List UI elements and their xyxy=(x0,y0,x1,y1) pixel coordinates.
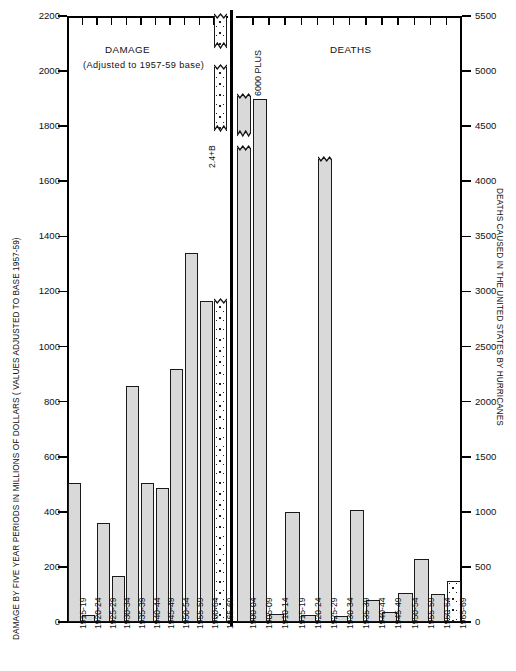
x-tick-label: 1965-69 xyxy=(225,597,235,629)
y-tick-label: 800 xyxy=(26,396,60,407)
top-tick xyxy=(284,16,285,25)
y-tick-label: 2000 xyxy=(26,65,60,76)
x-tick-label: 1930-34 xyxy=(345,597,355,629)
y-tick-label: 600 xyxy=(26,451,60,462)
y-tick-label: 5000 xyxy=(475,65,496,76)
x-tick-label: 1920-24 xyxy=(93,597,103,629)
x-tick-label: 1940-44 xyxy=(377,597,387,629)
top-tick xyxy=(397,16,398,25)
y-tick-label: 200 xyxy=(26,561,60,572)
y-tick-label: 3000 xyxy=(475,285,496,296)
top-tick xyxy=(381,16,382,25)
deaths-break-label: 6000 PLUS xyxy=(253,50,263,96)
x-tick-label: 1900-04 xyxy=(248,597,258,629)
deaths-caption: DEATHS xyxy=(330,44,371,55)
y-tick-label: 4500 xyxy=(475,120,496,131)
x-tick-label: 1950-54 xyxy=(410,597,420,629)
y-tick-label: 1000 xyxy=(475,506,496,517)
y-tick xyxy=(462,401,471,403)
x-tick-label: 1915-19 xyxy=(297,597,307,629)
top-tick xyxy=(301,16,302,25)
top-tick xyxy=(349,16,350,25)
y-tick-label: 1000 xyxy=(26,341,60,352)
bar xyxy=(253,99,268,622)
bar xyxy=(318,159,333,622)
y-tick-label: 1500 xyxy=(475,451,496,462)
top-tick xyxy=(333,16,334,25)
panel-divider xyxy=(230,10,233,626)
top-tick xyxy=(140,16,141,25)
y-tick-label: 4000 xyxy=(475,175,496,186)
top-tick xyxy=(365,16,366,25)
damage-caption: DAMAGE xyxy=(105,44,150,55)
x-tick-label: 1960-64 xyxy=(442,597,452,629)
y-tick-label: 5500 xyxy=(475,10,496,21)
top-tick xyxy=(111,16,112,25)
y-tick-label: 3500 xyxy=(475,230,496,241)
x-tick-label: 1920-24 xyxy=(313,597,323,629)
x-tick-label: 1935-39 xyxy=(361,597,371,629)
x-tick-label: 1940-44 xyxy=(152,597,162,629)
x-tick-label: 1925-29 xyxy=(329,597,339,629)
y-tick xyxy=(462,236,471,238)
top-tick xyxy=(199,16,200,25)
top-tick xyxy=(430,16,431,25)
top-tick xyxy=(446,16,447,25)
y-tick-label: 1800 xyxy=(26,120,60,131)
y-tick-label: 500 xyxy=(475,561,491,572)
top-tick xyxy=(268,16,269,25)
hurricane-damage-deaths-chart: DAMAGE BY FIVE YEAR PERIODS IN MILLIONS … xyxy=(0,0,516,671)
y-tick-label: 2500 xyxy=(475,341,496,352)
x-tick-label: 1905-09 xyxy=(264,597,274,629)
x-tick-label: 1945-49 xyxy=(393,597,403,629)
y-tick-label: 2000 xyxy=(475,396,496,407)
top-tick xyxy=(155,16,156,25)
top-tick xyxy=(96,16,97,25)
y-tick xyxy=(462,15,471,17)
top-tick xyxy=(169,16,170,25)
y-tick xyxy=(462,125,471,127)
bar xyxy=(200,301,213,622)
y-tick-label: 0 xyxy=(475,616,480,627)
y-tick xyxy=(462,511,471,513)
y-tick xyxy=(462,456,471,458)
x-tick-label: 1965-69 xyxy=(458,597,468,629)
x-tick-label: 1955-59 xyxy=(426,597,436,629)
top-tick xyxy=(82,16,83,25)
bar xyxy=(185,253,198,622)
x-tick-label: 1915-19 xyxy=(78,597,88,629)
damage-break-label: 2.4+B xyxy=(207,145,217,168)
top-tick xyxy=(184,16,185,25)
bar-segment xyxy=(237,96,252,133)
x-tick-label: 1925-29 xyxy=(108,597,118,629)
top-tick xyxy=(126,16,127,25)
y-tick xyxy=(462,291,471,293)
y-tick xyxy=(462,566,471,568)
x-tick-label: 1955-59 xyxy=(195,597,205,629)
bar-segment xyxy=(214,16,227,46)
x-tick-label: 1950-54 xyxy=(181,597,191,629)
right-axis-title: DEATHS CAUSED IN THE UNITED STATES BY HU… xyxy=(495,188,504,426)
y-tick xyxy=(462,180,471,182)
bar xyxy=(126,386,139,622)
x-tick-label: 1945-49 xyxy=(166,597,176,629)
x-tick-label: 1910-14 xyxy=(280,597,290,629)
bar xyxy=(214,301,227,622)
top-tick xyxy=(252,16,253,25)
y-tick-label: 1200 xyxy=(26,285,60,296)
bar xyxy=(237,148,252,622)
x-tick-label: 1935-39 xyxy=(137,597,147,629)
y-tick-label: 2200 xyxy=(26,10,60,21)
bar-segment xyxy=(214,67,227,129)
y-tick-label: 1600 xyxy=(26,175,60,186)
left-axis-title: DAMAGE BY FIVE YEAR PERIODS IN MILLIONS … xyxy=(12,237,21,640)
damage-subcaption: (Adjusted to 1957-59 base) xyxy=(83,60,204,70)
y-tick-label: 0 xyxy=(26,616,60,627)
bar xyxy=(170,369,183,622)
y-tick-label: 1400 xyxy=(26,230,60,241)
x-tick-label: 1930-34 xyxy=(122,597,132,629)
top-tick xyxy=(414,16,415,25)
top-tick xyxy=(317,16,318,25)
y-tick-label: 400 xyxy=(26,506,60,517)
x-tick-label: 1960-64 xyxy=(210,597,220,629)
